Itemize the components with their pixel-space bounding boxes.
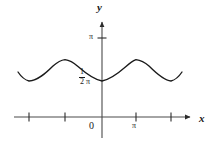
origin-label: 0 [89,121,94,131]
y-tick-label-pi: π [89,33,93,41]
x-axis-label: x [199,113,205,124]
pi-symbol: π [86,78,90,87]
y-axis-label: y [97,2,102,13]
fraction-denominator: 2 [79,78,85,86]
x-tick-label-pi: π [132,122,136,130]
y-intercept-label: 1 2 π [79,68,90,87]
graph-figure: y x 0 π π 1 2 π [0,0,209,143]
function-curve [18,60,182,81]
plot-canvas [0,0,209,143]
fraction-numerator: 1 [79,68,85,76]
fraction-one-half: 1 2 [79,68,85,87]
